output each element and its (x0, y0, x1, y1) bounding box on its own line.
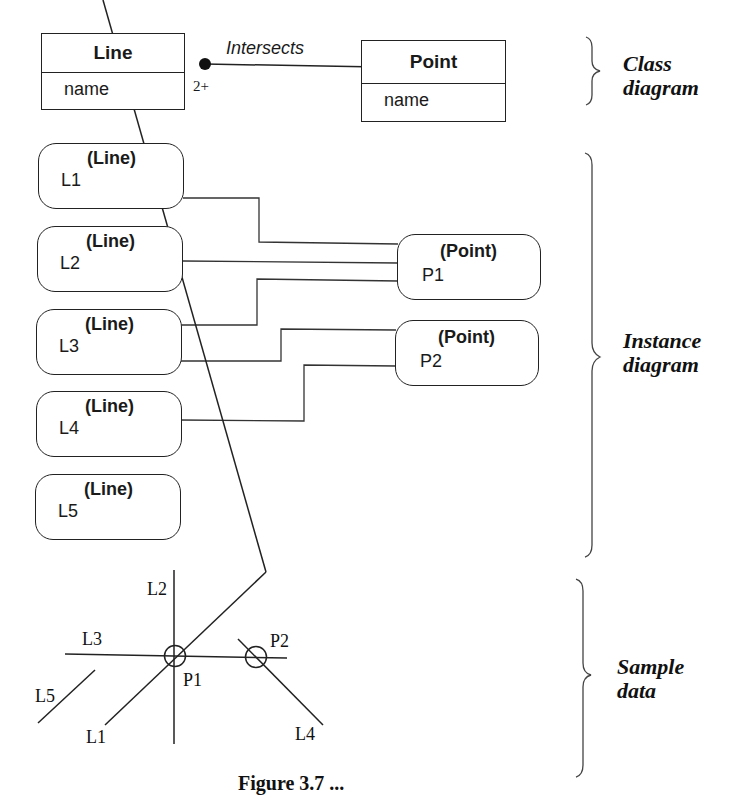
class-point: Point name (361, 40, 506, 122)
link-L4-P2 (180, 365, 396, 421)
brace-sample (576, 579, 591, 777)
multiplicity-label: 2+ (193, 78, 209, 95)
section-label-instance: Instance diagram (623, 329, 701, 377)
sample-label-L4: L4 (295, 724, 315, 745)
link-L3-P2 (181, 329, 396, 361)
class-attribute: name (42, 73, 184, 100)
instance-line-L2: (Line) L2 (37, 226, 183, 292)
class-attribute: name (362, 84, 505, 111)
instance-point-P1: (Point) P1 (397, 234, 541, 300)
class-name: Point (362, 41, 505, 84)
class-line: Line name (41, 33, 185, 110)
link-L2-P1 (183, 261, 398, 263)
instance-line-L5: (Line) L5 (35, 474, 181, 540)
figure-caption: Figure 3.7 ... (238, 772, 344, 795)
section-label-class: Class diagram (623, 52, 699, 100)
brace-instance (585, 153, 600, 557)
instance-line-L4: (Line) L4 (36, 391, 182, 457)
sample-label-L1: L1 (86, 727, 106, 748)
association-name: Intersects (226, 38, 304, 59)
association-end-dot (199, 58, 211, 70)
sample-label-L3: L3 (82, 629, 102, 650)
sample-line-L1 (105, 572, 266, 725)
link-L3-P1 (181, 279, 398, 325)
class-name: Line (42, 34, 184, 73)
section-label-sample: Sample data (617, 655, 684, 703)
link-L1-P1 (183, 198, 398, 244)
sample-label-L2: L2 (147, 579, 167, 600)
instance-point-P2: (Point) P2 (395, 320, 539, 386)
sample-label-L5: L5 (35, 686, 55, 707)
brace-class (586, 37, 600, 105)
instance-line-L1: (Line) L1 (38, 143, 184, 209)
sample-label-P2: P2 (270, 631, 289, 652)
sample-label-P1: P1 (183, 670, 202, 691)
instance-line-L3: (Line) L3 (36, 309, 182, 375)
